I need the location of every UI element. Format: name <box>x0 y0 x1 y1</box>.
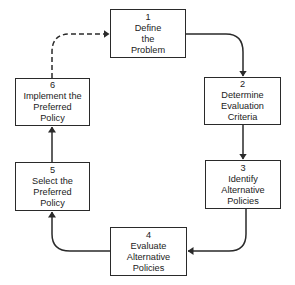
step-4-line-1: Evaluate <box>131 241 167 252</box>
step-3-line-2: Alternative <box>221 185 264 196</box>
step-5-line-2: Preferred <box>33 187 71 198</box>
arrow-3-to-4 <box>188 209 246 251</box>
arrow-1-to-2 <box>186 34 243 76</box>
step-6-number: 6 <box>50 80 55 91</box>
step-1-box: 1 Define the Problem <box>110 9 186 58</box>
step-4-line-3: Policies <box>133 263 165 274</box>
step-1-line-3: Problem <box>131 45 165 56</box>
step-6-box: 6 Implement the Preferred Policy <box>15 78 90 126</box>
step-5-number: 5 <box>50 165 55 176</box>
step-2-box: 2 Determine Evaluation Criteria <box>204 77 281 125</box>
policy-cycle-diagram: 1 Define the Problem 2 Determine Evaluat… <box>0 0 295 285</box>
step-3-line-3: Policies <box>227 196 259 207</box>
step-5-line-3: Policy <box>40 198 65 209</box>
step-3-line-1: Identify <box>228 174 258 185</box>
step-4-line-2: Alternative <box>127 252 170 263</box>
step-1-line-2: the <box>142 34 155 45</box>
step-5-box: 5 Select the Preferred Policy <box>15 162 90 211</box>
arrow-4-to-5 <box>52 212 110 251</box>
step-6-line-2: Preferred <box>33 102 71 113</box>
step-1-line-1: Define <box>135 23 162 34</box>
step-3-number: 3 <box>240 163 245 174</box>
step-2-line-1: Determine <box>221 90 263 101</box>
step-4-number: 4 <box>146 230 151 241</box>
step-2-line-3: Criteria <box>228 112 258 123</box>
step-3-box: 3 Identify Alternative Policies <box>205 160 281 209</box>
step-5-line-1: Select the <box>32 176 73 187</box>
arrow-6-to-1-dashed <box>52 34 109 78</box>
step-2-number: 2 <box>240 79 245 90</box>
step-2-line-2: Evaluation <box>221 101 264 112</box>
step-1-number: 1 <box>145 12 150 23</box>
step-6-line-1: Implement the <box>23 91 81 102</box>
step-4-box: 4 Evaluate Alternative Policies <box>110 227 187 276</box>
step-6-line-3: Policy <box>40 113 65 124</box>
